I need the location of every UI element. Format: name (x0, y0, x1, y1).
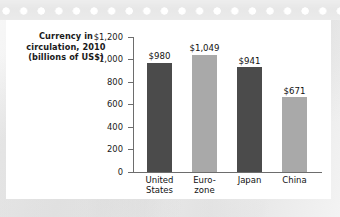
category-label-china-line-1: China (267, 175, 323, 185)
perforated-edge-strip (0, 0, 340, 20)
chart-card: Currency in circulation, 2010 (billions … (6, 19, 331, 199)
y-axis-label-800: 800 (63, 78, 123, 86)
y-tick-800 (128, 82, 133, 83)
perforation-holes (0, 6, 340, 16)
value-label-united-states: $980 (132, 52, 188, 61)
y-axis-label-600: 600 (63, 100, 123, 108)
category-label-euro-zone-line-2: zone (177, 185, 233, 195)
y-tick-200 (128, 149, 133, 150)
y-tick-0 (128, 172, 133, 173)
value-label-china: $671 (267, 87, 323, 96)
y-tick-1200 (128, 37, 133, 38)
bar-china[interactable] (282, 97, 307, 172)
bar-fill-united-states (147, 63, 172, 172)
x-axis-line (133, 172, 322, 173)
bar-chart-plot: $1,200 1,000 800 600 400 200 0 $980 $1,0… (6, 19, 331, 199)
category-label-china: China (267, 175, 323, 185)
value-label-euro-zone: $1,049 (177, 44, 233, 53)
bar-fill-japan (237, 67, 262, 172)
bar-united-states[interactable] (147, 63, 172, 172)
y-tick-400 (128, 127, 133, 128)
page-background: Currency in circulation, 2010 (billions … (0, 0, 340, 217)
y-axis-label-0: 0 (63, 168, 123, 176)
value-label-japan: $941 (222, 57, 278, 66)
bar-japan[interactable] (237, 67, 262, 172)
bar-fill-euro-zone (192, 55, 217, 172)
y-axis-label-1000: 1,000 (63, 55, 123, 63)
bar-euro-zone[interactable] (192, 55, 217, 172)
y-tick-600 (128, 104, 133, 105)
y-axis-label-1200: $1,200 (63, 33, 123, 41)
bar-fill-china (282, 97, 307, 172)
y-axis-label-200: 200 (63, 145, 123, 153)
y-axis-label-400: 400 (63, 123, 123, 131)
